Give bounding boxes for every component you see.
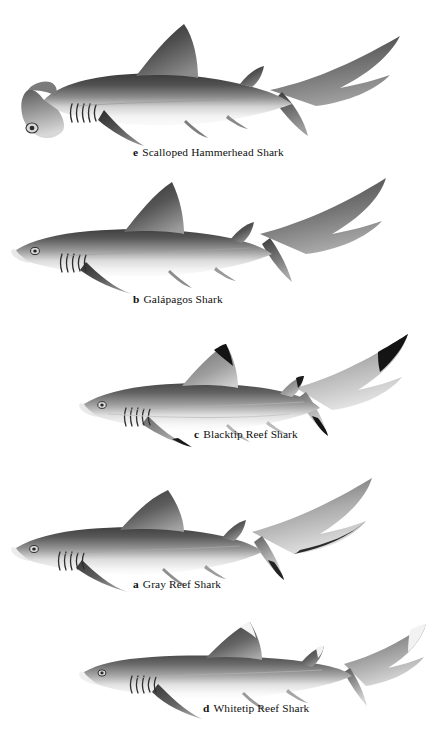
shark-illustration-gray [8,472,408,592]
caption-galapagos: bGalápagos Shark [133,293,223,305]
pupil [100,672,103,675]
figure-letter: d [203,702,209,714]
caption-whitetip: dWhitetip Reef Shark [203,702,309,714]
caudal-fin-upper [270,36,400,106]
pupil [30,126,35,130]
first-dorsal-fin [124,182,184,234]
gray-reef-drawing [8,472,408,592]
caption-blacktip: cBlacktip Reef Shark [194,428,298,440]
figure-name: Gray Reef Shark [143,578,221,590]
body [16,527,262,574]
figure-letter: c [194,428,199,440]
caption-hammerhead: eScalloped Hammerhead Shark [133,146,284,158]
hammerhead-drawing [8,18,433,146]
pupil [32,547,36,550]
figure-name: Scalloped Hammerhead Shark [142,146,284,158]
caption-gray-reef: aGray Reef Shark [133,578,221,590]
shark-illustration-galapagos [8,172,420,294]
pectoral-black-tip [172,438,192,447]
figure-letter: a [133,578,139,590]
second-dorsal-fin [230,222,254,243]
caudal-fin-upper [252,478,372,554]
first-dorsal-fin [206,622,262,660]
caudal-upper-black-tip [378,334,408,372]
figure-name: Whitetip Reef Shark [213,702,309,714]
first-dorsal-fin [120,490,184,532]
first-dorsal-fin [182,344,238,388]
second-dorsal-fin [240,66,264,87]
shark-illustration-hammerhead [8,18,433,146]
illustration-plate: eScalloped Hammerhead Shark [0,0,439,749]
caudal-white-tip [408,624,426,652]
anal-fin [204,565,226,579]
pupil [100,404,103,407]
figure-letter: e [133,146,138,158]
figure-letter: b [133,293,139,305]
figure-name: Blacktip Reef Shark [203,428,298,440]
second-dorsal-fin [222,520,246,541]
caudal-fin-upper [260,178,386,254]
galapagos-drawing [8,172,420,294]
anal-fin [286,689,308,703]
figure-name: Galápagos Shark [143,293,222,305]
pupil [33,249,37,252]
anal-fin [214,267,236,281]
first-dorsal-fin [136,24,198,78]
